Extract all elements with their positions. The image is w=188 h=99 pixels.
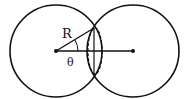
angle-arc (75, 40, 78, 51)
angle-label: θ (67, 56, 74, 69)
left-center-dot (54, 49, 58, 53)
radius-label: R (62, 26, 73, 41)
diagram-canvas: R θ (0, 0, 188, 99)
right-center-dot (131, 49, 135, 53)
two-circles-diagram: R θ (0, 0, 188, 99)
